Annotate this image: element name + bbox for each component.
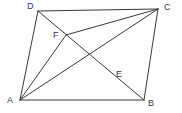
vertex-label-e: E <box>116 70 122 79</box>
vertex-label-f: F <box>53 31 59 40</box>
side-BC <box>144 9 158 100</box>
segments-group <box>20 9 158 100</box>
vertex-label-b: B <box>148 99 154 108</box>
geometry-figure: A B C D E F <box>0 0 182 113</box>
vertex-label-d: D <box>27 2 34 11</box>
cevian-FC <box>66 9 158 35</box>
vertex-label-a: A <box>7 96 13 105</box>
diagonal-DB-through-F-and-E <box>38 11 144 100</box>
diagonal-AC-through-E <box>20 9 158 100</box>
side-CD <box>38 9 158 11</box>
geometry-diagram-canvas <box>0 0 182 113</box>
vertex-label-c: C <box>164 3 171 12</box>
